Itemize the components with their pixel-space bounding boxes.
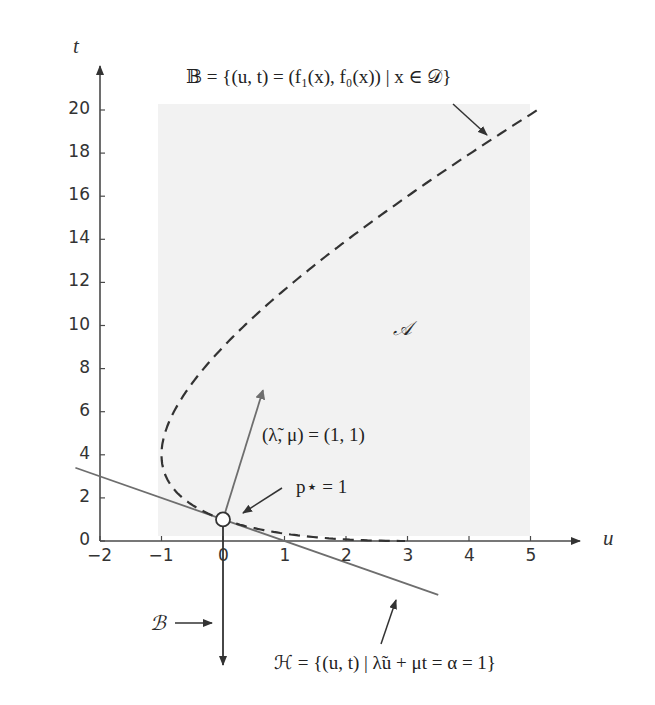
region-a-label: 𝒜 <box>393 316 412 340</box>
region-a-shading <box>158 104 530 536</box>
x-tick-label: 5 <box>526 545 537 565</box>
x-tick-label: 3 <box>403 545 414 565</box>
y-tick-label: 10 <box>68 314 90 334</box>
x-tick-label: −2 <box>87 545 112 565</box>
y-tick-label: 20 <box>68 98 90 118</box>
y-axis-label: t <box>73 34 79 59</box>
y-tick-label: 2 <box>79 486 90 506</box>
y-tick-label: 18 <box>68 141 90 161</box>
x-tick-label: 1 <box>280 545 291 565</box>
y-tick-label: 6 <box>79 400 90 420</box>
y-tick-label: 8 <box>79 357 90 377</box>
optimal-point-marker <box>216 512 230 526</box>
x-axis-label: u <box>603 526 614 551</box>
plot-svg <box>0 0 655 705</box>
optimal-value-label: p⋆ = 1 <box>296 475 347 498</box>
y-tick-label: 16 <box>68 184 90 204</box>
set-b-ray-label: ℬ <box>150 611 166 635</box>
set-b-boundary-label: 𝔹 = {(u, t) = (f₁(x), f₀(x)) | x ∈ 𝒟} <box>186 65 451 88</box>
x-tick-label: −1 <box>149 545 174 565</box>
x-tick-label: 4 <box>464 545 475 565</box>
hyperplane-pointer-arrow <box>381 600 396 644</box>
y-tick-label: 14 <box>68 227 90 247</box>
dual-vector-label: (λ̃, μ) = (1, 1) <box>262 424 365 446</box>
x-tick-label: 2 <box>341 545 352 565</box>
y-tick-label: 12 <box>68 270 90 290</box>
x-tick-label: 0 <box>218 545 229 565</box>
y-tick-label: 0 <box>79 529 90 549</box>
hyperplane-label: ℋ = {(u, t) | λ̃u + μt = α = 1} <box>274 651 496 674</box>
y-tick-label: 4 <box>79 443 90 463</box>
figure-canvas: −2−1012345 02468101214161820 t u 𝔹 = {(u… <box>0 0 655 705</box>
